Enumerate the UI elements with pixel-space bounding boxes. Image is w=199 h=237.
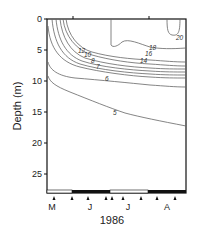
plot-frame (47, 19, 186, 193)
y-tick-0: 0 (37, 14, 42, 24)
y-tick-10: 10 (32, 76, 42, 86)
isotherm-chart: 0 5 10 15 20 25 Depth (m) 20 18 16 14 1 (0, 0, 199, 237)
y-tick-20: 20 (32, 138, 42, 148)
x-axis-title: 1986 (100, 214, 124, 226)
y-tick-15: 15 (32, 107, 42, 117)
month-bar (47, 190, 186, 193)
month-label-august: A (164, 202, 170, 212)
isotherm-label-6: 6 (105, 75, 109, 82)
month-label-june: J (88, 202, 93, 212)
isotherm-label-14: 14 (140, 57, 148, 64)
sampling-markers (53, 196, 177, 200)
isotherm-label-20: 20 (175, 34, 184, 41)
y-axis: 0 5 10 15 20 25 (32, 14, 47, 179)
y-tick-25: 25 (32, 169, 42, 179)
y-axis-title: Depth (m) (11, 82, 23, 131)
isotherm-label-5: 5 (113, 109, 117, 116)
y-tick-5: 5 (37, 45, 42, 55)
month-label-may: M (48, 202, 56, 212)
isotherm-label-16: 16 (145, 50, 153, 57)
isotherm-label-8: 8 (91, 57, 95, 64)
isotherm-label-7: 7 (96, 63, 100, 70)
isotherm-lines (48, 19, 186, 126)
month-label-july: J (126, 202, 131, 212)
